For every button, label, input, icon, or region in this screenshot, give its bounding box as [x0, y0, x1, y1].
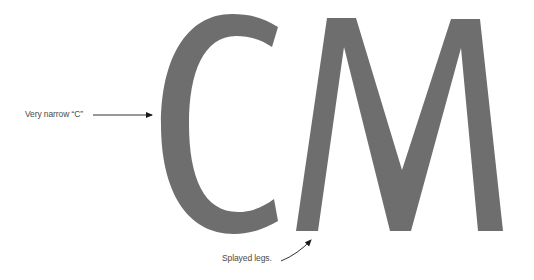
type-specimen [0, 0, 534, 280]
annotation-splayed-legs: Splayed legs. [222, 253, 272, 263]
arrow-to-m-leg [281, 240, 311, 261]
letter-c-glyph [161, 14, 278, 234]
letter-m-glyph [296, 18, 503, 231]
annotation-narrow-c: Very narrow “C” [25, 109, 83, 119]
